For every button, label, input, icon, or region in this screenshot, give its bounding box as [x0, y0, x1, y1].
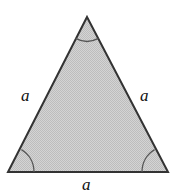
bottom-side-length-label: a — [82, 176, 91, 193]
equilateral-triangle-figure: l g a a a — [0, 0, 182, 195]
left-side-length-label: a — [21, 87, 30, 104]
right-side-length-label: a — [140, 87, 149, 104]
